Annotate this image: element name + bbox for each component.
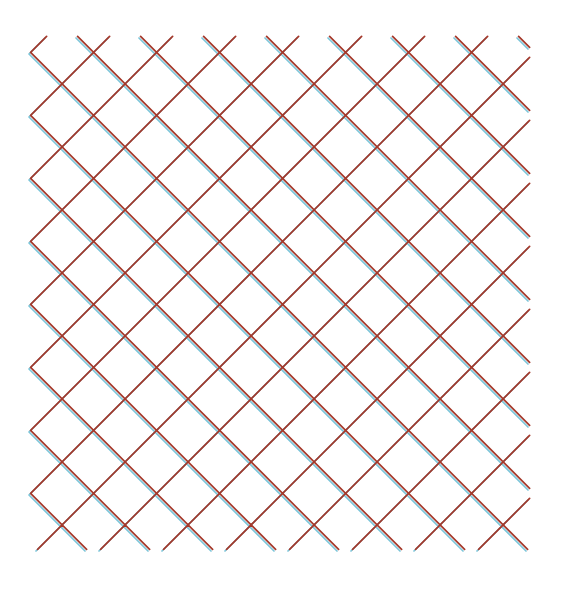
lattice-plot	[0, 0, 567, 590]
figure-canvas	[0, 0, 567, 590]
